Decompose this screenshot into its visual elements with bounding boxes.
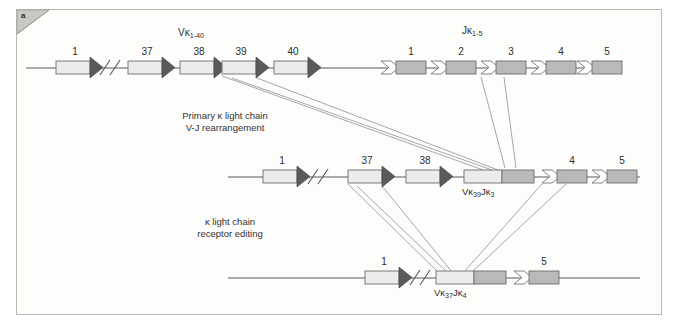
j-segment-label-5: 5: [529, 256, 559, 268]
j-segment-label-5: 5: [607, 155, 637, 167]
fusion-label-vk37jk4: Vκ37Jκ4: [434, 287, 467, 300]
row-primary-rearranged: [228, 166, 640, 187]
v-segment-label-38: 38: [408, 155, 442, 167]
annotation-line-1: κ light chain: [170, 216, 290, 228]
fusion-segment-vk39jk3: [464, 170, 534, 183]
v-segment-40: [274, 57, 321, 78]
j-segment-label-2: 2: [446, 46, 476, 58]
j-region-title: Jκ1-5: [462, 25, 482, 38]
panel-letter: a: [21, 11, 25, 21]
v-segment-label-37: 37: [130, 46, 164, 58]
v-segment-37: [348, 166, 395, 187]
j-segment-label-5: 5: [592, 46, 622, 58]
fusion-label-vk39jk3: Vκ39Jκ3: [462, 186, 495, 199]
v-segment-label-1: 1: [367, 256, 401, 268]
v-segment-38: [406, 166, 453, 187]
row-edited: [228, 267, 640, 288]
v-segment-1: [56, 57, 103, 78]
annotation-receptor-editing: κ light chain receptor editing: [170, 216, 290, 239]
annotation-line-2: receptor editing: [170, 228, 290, 240]
v-segment-label-39: 39: [224, 46, 258, 58]
v-segment-39: [222, 57, 269, 78]
row-germline: [26, 57, 622, 78]
j-segment-label-1: 1: [396, 46, 426, 58]
v-segment-label-38: 38: [182, 46, 216, 58]
v-region-title: Vκ1-40: [178, 27, 204, 40]
annotation-line-2: V-J rearrangement: [160, 122, 290, 134]
figure-panel: a Vκ1-40 Jκ1-5 1 37 38 39 40 1 2 3 4 5 P…: [0, 0, 676, 326]
v-segment-1: [365, 267, 412, 288]
v-segment-label-37: 37: [350, 155, 384, 167]
annotation-line-1: Primary κ light chain: [160, 110, 290, 122]
v-segment-label-40: 40: [276, 46, 310, 58]
v-segment-38: [180, 57, 227, 78]
v-segment-1: [263, 166, 310, 187]
annotation-primary-rearrangement: Primary κ light chain V-J rearrangement: [160, 110, 290, 133]
v-segment-label-1: 1: [58, 46, 92, 58]
j-segment-label-4: 4: [557, 155, 587, 167]
v-segment-label-1: 1: [265, 155, 299, 167]
fusion-segment-vk37jk4: [436, 271, 506, 284]
v-segment-37: [128, 57, 175, 78]
j-segment-label-4: 4: [546, 46, 576, 58]
j-segment-label-3: 3: [496, 46, 526, 58]
